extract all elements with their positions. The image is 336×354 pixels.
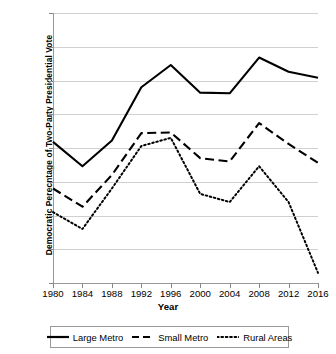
legend-swatch-dotted [217, 333, 239, 341]
x-axis-title: Year [0, 301, 336, 312]
plot-area [53, 13, 318, 283]
legend-label: Large Metro [73, 332, 124, 343]
series-paths [53, 13, 318, 283]
series-line-large-metro [53, 58, 318, 167]
legend-swatch-solid [47, 333, 69, 341]
x-axis-line [53, 283, 319, 284]
legend-item-rural-areas[interactable]: Rural Areas [217, 332, 292, 343]
line-chart: Democratic Perecntage of Two-Party Presi… [0, 0, 336, 354]
legend-label: Small Metro [158, 332, 208, 343]
legend-item-small-metro[interactable]: Small Metro [132, 332, 208, 343]
chart-legend: Large MetroSmall MetroRural Areas [50, 326, 289, 348]
legend-label: Rural Areas [243, 332, 292, 343]
legend-swatch-dashed [132, 333, 154, 341]
legend-item-large-metro[interactable]: Large Metro [47, 332, 124, 343]
x-axis-tick-label: 2016 [298, 288, 336, 299]
